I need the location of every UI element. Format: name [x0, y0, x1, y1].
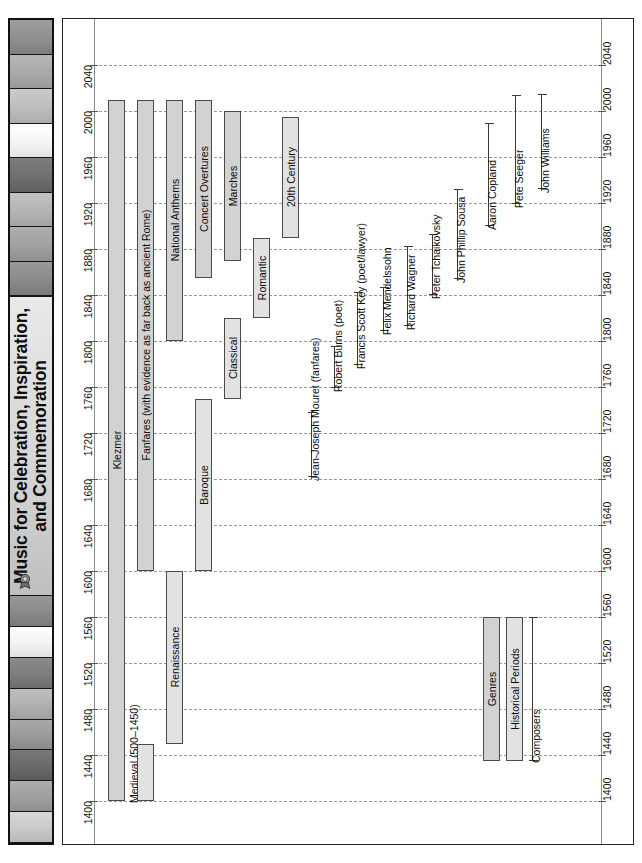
timeline-chart-page: Music for Celebration, Inspiration, and …: [0, 0, 642, 863]
swatch-9: [10, 596, 52, 627]
axis-tick-label-right-2000: 2000: [601, 88, 613, 111]
axis-tick-right-1520: [598, 663, 606, 664]
axis-tick-label-left-1440: 1440: [82, 755, 94, 778]
axis-tick-label-right-1760: 1760: [601, 364, 613, 387]
composer-label-jean-joseph-mouret-fanfares: Jean-Joseph Mouret (fanfares): [309, 337, 321, 481]
composer-label-john-williams: John Williams: [539, 128, 551, 193]
bar-20th-century[interactable]: 20th Century: [282, 117, 299, 238]
axis-tick-right-1880: [598, 249, 606, 250]
composer-label-pete-seeger: Pete Seeger: [513, 150, 525, 208]
plot-area: 1400140014401440148014801520152015601560…: [94, 19, 602, 844]
title-column: Music for Celebration, Inspiration, and …: [8, 18, 54, 845]
axis-tick-label-right-1440: 1440: [601, 732, 613, 755]
bar-label-marches: Marches: [227, 166, 239, 206]
bar-label-fanfares-with-evidence-as-far-back-as-ancient-rome: Fanfares (with evidence as far back as a…: [140, 210, 152, 461]
composer-label-francis-scott-key-poet-lawyer: Francis Scott Key (poet/lawyer): [355, 223, 367, 369]
axis-tick-label-right-1520: 1520: [601, 640, 613, 663]
chart-title-panel: Music for Celebration, Inspiration, and …: [10, 296, 52, 596]
bar-classical[interactable]: Classical: [224, 318, 241, 399]
swatch-4: [10, 124, 52, 159]
axis-tick-right-1640: [598, 525, 606, 526]
range-cap-top: [454, 189, 463, 190]
bar-medieval-500-1450[interactable]: [137, 744, 154, 802]
swatch-13: [10, 720, 52, 751]
legend-swatch-historical-periods: Historical Periods: [506, 617, 523, 761]
axis-tick-label-right-1840: 1840: [601, 272, 613, 295]
bar-concert-overtures[interactable]: Concert Overtures: [195, 100, 212, 278]
chart-title-line2: and Commemoration: [31, 308, 50, 584]
axis-tick-label-left-1640: 1640: [82, 525, 94, 548]
range-cap-top: [485, 123, 494, 124]
axis-tick-label-left-2040: 2040: [82, 65, 94, 88]
axis-tick-label-right-1400: 1400: [601, 778, 613, 801]
axis-tick-label-left-1880: 1880: [82, 249, 94, 272]
axis-tick-label-left-1960: 1960: [82, 157, 94, 180]
legend-label-historical-periods: Historical Periods: [509, 648, 521, 730]
composer-label-richard-wagner: Richard Wagner: [405, 255, 417, 330]
axis-tick-right-2040: [598, 65, 606, 66]
axis-tick-label-right-1600: 1600: [601, 548, 613, 571]
composer-label-aaron-copland: Aaron Copland: [486, 160, 498, 230]
gridline-2040: [94, 65, 602, 66]
gridline-1640: [94, 525, 602, 526]
axis-tick-label-right-1720: 1720: [601, 410, 613, 433]
bar-klezmer[interactable]: Klezmer: [108, 100, 125, 802]
axis-tick-label-right-1800: 1800: [601, 318, 613, 341]
bar-label-klezmer: Klezmer: [111, 431, 123, 470]
axis-tick-right-1920: [598, 203, 606, 204]
axis-tick-right-1760: [598, 387, 606, 388]
swatch-15: [10, 781, 52, 812]
legend-label-composers: Composers: [530, 709, 542, 763]
range-cap-top: [529, 617, 538, 618]
swatch-11: [10, 658, 52, 689]
axis-tick-right-1600: [598, 571, 606, 572]
axis-tick-right-1720: [598, 433, 606, 434]
bar-national-anthems[interactable]: National Anthems: [166, 100, 183, 342]
axis-tick-label-right-1480: 1480: [601, 686, 613, 709]
swatch-2: [10, 55, 52, 90]
bar-fanfares-with-evidence-as-far-back-as-ancient-rome[interactable]: Fanfares (with evidence as far back as a…: [137, 100, 154, 572]
bar-label-classical: Classical: [227, 337, 239, 379]
range-cap-top: [404, 246, 413, 247]
axis-tick-right-1680: [598, 479, 606, 480]
bar-baroque[interactable]: Baroque: [195, 399, 212, 572]
axis-tick-label-right-2040: 2040: [601, 42, 613, 65]
axis-tick-label-left-1800: 1800: [82, 341, 94, 364]
bar-marches[interactable]: Marches: [224, 111, 241, 261]
axis-tick-label-left-1720: 1720: [82, 433, 94, 456]
swatch-5: [10, 158, 52, 193]
gridline-1800: [94, 341, 602, 342]
axis-tick-right-1560: [598, 617, 606, 618]
axis-tick-label-left-1560: 1560: [82, 617, 94, 640]
swatch-7: [10, 227, 52, 262]
axis-tick-right-1840: [598, 295, 606, 296]
swatch-8: [10, 262, 52, 297]
swatch-16: [10, 812, 52, 843]
chart-frame: 1400140014401440148014801520152015601560…: [62, 18, 634, 845]
swatch-1: [10, 20, 52, 55]
range-cap-top: [512, 95, 521, 96]
bar-label-romantic: Romantic: [256, 256, 268, 300]
range-cap-top: [538, 94, 547, 95]
bar-label-concert-overtures: Concert Overtures: [198, 146, 210, 232]
swatch-3: [10, 89, 52, 124]
bar-label-national-anthems: National Anthems: [169, 179, 181, 261]
bar-label-baroque: Baroque: [198, 465, 210, 505]
axis-tick-label-left-1600: 1600: [82, 571, 94, 594]
composer-label-john-phillip-sousa: John Phillip Sousa: [455, 197, 467, 283]
axis-tick-label-right-1880: 1880: [601, 226, 613, 249]
gridline-1400: [94, 801, 602, 802]
bar-label-renaissance: Renaissance: [169, 627, 181, 688]
legend-label-genres: Genres: [486, 672, 498, 706]
axis-tick-label-left-1840: 1840: [82, 295, 94, 318]
bar-renaissance[interactable]: Renaissance: [166, 571, 183, 744]
composer-label-robert-burns-poet: Robert Burns (poet): [332, 300, 344, 392]
gridline-1440: [94, 755, 602, 756]
bar-label-20th-century: 20th Century: [285, 147, 297, 207]
bar-romantic[interactable]: Romantic: [253, 238, 270, 319]
swatch-14: [10, 750, 52, 781]
axis-tick-label-left-2000: 2000: [82, 111, 94, 134]
axis-tick-label-left-1760: 1760: [82, 387, 94, 410]
gridline-1720: [94, 433, 602, 434]
axis-tick-right-1440: [598, 755, 606, 756]
